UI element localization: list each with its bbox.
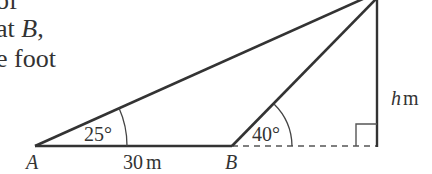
- angle-label-b: 40°: [252, 124, 280, 144]
- length-label-ab: 30m: [123, 152, 162, 172]
- right-angle-marker: [356, 124, 377, 146]
- diagram-geometry: [0, 0, 432, 174]
- trigonometry-diagram: of at B, e foot 25° 40° A B 30m: [0, 0, 432, 174]
- height-label: hm: [391, 88, 419, 108]
- point-label-b: B: [225, 152, 237, 172]
- angle-label-a: 25°: [84, 124, 112, 144]
- angle-arc-a: [119, 108, 127, 146]
- point-label-a: A: [26, 152, 38, 172]
